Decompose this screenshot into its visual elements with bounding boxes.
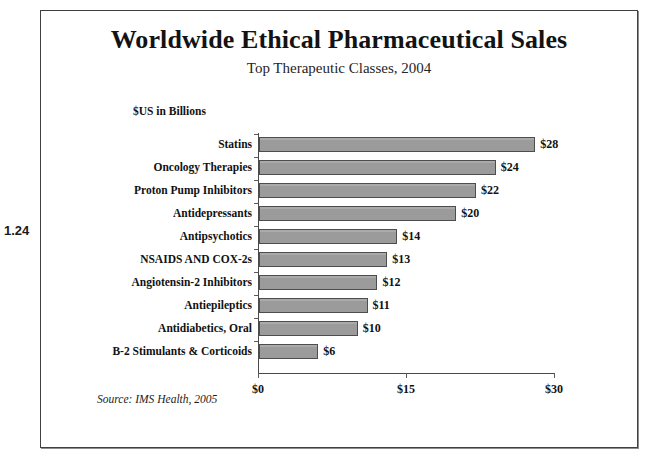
- bar-value-label: $6: [323, 342, 335, 361]
- y-axis-tick: [254, 272, 258, 273]
- category-label: Oncology Therapies: [153, 158, 252, 177]
- bar-value-label: $11: [373, 296, 390, 315]
- bar-highlight: [260, 276, 376, 278]
- category-label: Angiotensin-2 Inhibitors: [132, 273, 252, 292]
- plot-area: Statins$28Oncology Therapies$24Proton Pu…: [258, 133, 554, 373]
- bar: [259, 252, 387, 267]
- bar: [259, 298, 368, 313]
- bar-row: Antidepressants$20: [258, 203, 554, 226]
- bar-row: Antiepileptics$11: [258, 295, 554, 318]
- y-axis-tick: [254, 226, 258, 227]
- x-axis-tick: [258, 373, 259, 378]
- bar-highlight: [260, 345, 317, 347]
- category-label: Proton Pump Inhibitors: [134, 181, 252, 200]
- y-axis-tick: [254, 249, 258, 250]
- bar-value-label: $28: [540, 135, 558, 154]
- x-axis-tick: [406, 373, 407, 378]
- bar-value-label: $14: [402, 227, 420, 246]
- figure-number: 1.24: [4, 223, 29, 238]
- bar: [259, 321, 358, 336]
- category-label: B-2 Stimulants & Corticoids: [112, 342, 252, 361]
- y-axis-tick: [254, 318, 258, 319]
- bar-row: B-2 Stimulants & Corticoids$6: [258, 341, 554, 364]
- category-label: Statins: [218, 135, 252, 154]
- category-label: Antidepressants: [173, 204, 252, 223]
- bar-highlight: [260, 138, 534, 140]
- category-label: Antidiabetics, Oral: [158, 319, 252, 338]
- y-axis-tick: [254, 341, 258, 342]
- bar-row: Oncology Therapies$24: [258, 157, 554, 180]
- category-label: NSAIDS AND COX-2s: [140, 250, 252, 269]
- axis-units-label: $US in Billions: [133, 105, 206, 117]
- bar: [259, 275, 377, 290]
- bar-value-label: $20: [461, 204, 479, 223]
- x-axis-tick: [554, 373, 555, 378]
- bar-highlight: [260, 299, 367, 301]
- x-axis-tick-label: $30: [545, 382, 563, 397]
- y-axis-tick: [254, 203, 258, 204]
- bar-row: Angiotensin-2 Inhibitors$12: [258, 272, 554, 295]
- bar-value-label: $12: [382, 273, 400, 292]
- bar-value-label: $13: [392, 250, 410, 269]
- chart-title: Worldwide Ethical Pharmaceutical Sales: [41, 25, 637, 55]
- y-axis-tick: [254, 180, 258, 181]
- bar-row: NSAIDS AND COX-2s$13: [258, 249, 554, 272]
- bar-value-label: $22: [481, 181, 499, 200]
- source-note: Source: IMS Health, 2005: [97, 393, 217, 405]
- bar: [259, 183, 476, 198]
- x-axis-tick-label: $0: [252, 382, 264, 397]
- chart-frame: Worldwide Ethical Pharmaceutical Sales T…: [40, 10, 638, 448]
- bar-highlight: [260, 230, 396, 232]
- chart-subtitle: Top Therapeutic Classes, 2004: [41, 60, 637, 77]
- bar: [259, 160, 496, 175]
- bar-highlight: [260, 253, 386, 255]
- bar-highlight: [260, 322, 357, 324]
- bar-highlight: [260, 184, 475, 186]
- y-axis-tick: [254, 134, 258, 135]
- bar: [259, 137, 535, 152]
- bar-row: Proton Pump Inhibitors$22: [258, 180, 554, 203]
- bar-row: Antidiabetics, Oral$10: [258, 318, 554, 341]
- bar-value-label: $24: [501, 158, 519, 177]
- x-axis-tick-label: $15: [397, 382, 415, 397]
- bar-highlight: [260, 207, 455, 209]
- bar-row: Statins$28: [258, 134, 554, 157]
- y-axis-tick: [254, 157, 258, 158]
- bar-value-label: $10: [363, 319, 381, 338]
- bar-highlight: [260, 161, 495, 163]
- category-label: Antipsychotics: [180, 227, 252, 246]
- bar: [259, 229, 397, 244]
- bar-row: Antipsychotics$14: [258, 226, 554, 249]
- bar: [259, 206, 456, 221]
- y-axis-tick: [254, 295, 258, 296]
- bar: [259, 344, 318, 359]
- category-label: Antiepileptics: [184, 296, 252, 315]
